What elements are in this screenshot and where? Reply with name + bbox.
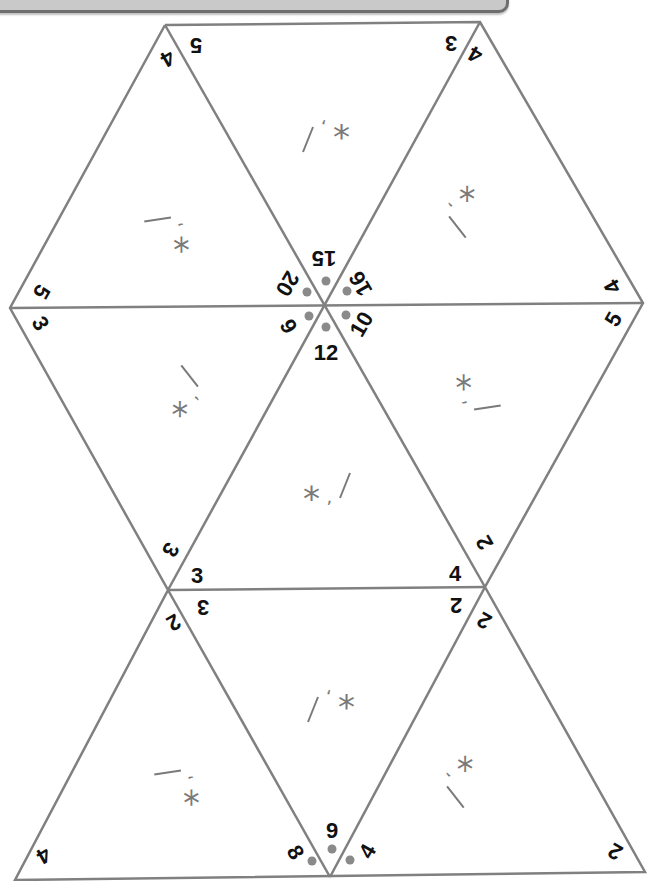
edge-label: 5: [28, 280, 56, 303]
center-label-bottom: 12: [314, 340, 338, 365]
svg-text:*: *: [338, 687, 355, 727]
svg-text:*: *: [303, 468, 320, 508]
svg-text:*: *: [155, 230, 198, 265]
edge-label: 4: [32, 842, 56, 870]
edge-label: 5: [600, 308, 628, 331]
svg-text:*: *: [447, 362, 490, 397]
svg-text:*: *: [333, 117, 350, 157]
triangle-symbol-bottom-left: ‘ *: [150, 756, 209, 817]
svg-text:*: *: [165, 783, 208, 818]
bottom-center-label-left: 8: [282, 841, 310, 864]
edge-label: 4: [156, 45, 180, 73]
triangle-symbols: ‘ * ‘ * ‘ * ‘ * ‘ * ‘ * ‘: [140, 116, 505, 818]
svg-text:‘: ‘: [321, 116, 327, 137]
triangle-symbol-bottom-right: ‘ *: [433, 749, 492, 810]
edge-label: 3: [191, 563, 203, 588]
svg-text:‘: ‘: [326, 686, 332, 707]
center-label-top-left: 20: [271, 267, 305, 301]
bottom-center-label-right: 4: [354, 839, 382, 863]
edge-label: 2: [473, 607, 496, 635]
triangle-symbol-lower-left: ‘ *: [153, 363, 212, 424]
edge-label: 2: [471, 531, 499, 554]
triangle-symbol-top: ‘ *: [303, 116, 350, 157]
edge-label: 4: [598, 275, 626, 299]
edge-label: 3: [27, 312, 55, 335]
bottom-center-label-mid: 9: [326, 818, 338, 843]
center-label-bottom-left: 9: [275, 315, 303, 338]
triangle-symbol-upper-right: ‘ *: [435, 179, 494, 240]
tarsia-puzzle-board: 15 16 10 12 9 20 8 9 4 5 4 3 4 5 3 4 5 3…: [0, 0, 656, 881]
triangle-symbol-upper-left: ‘ *: [140, 203, 199, 264]
triangle-grid-lines: [10, 22, 645, 880]
edge-label: 3: [197, 595, 209, 620]
edge-label: 4: [449, 561, 462, 586]
triangle-symbol-lower-right: ‘ *: [446, 362, 505, 423]
edge-label: 5: [190, 33, 202, 58]
svg-text:‘: ‘: [326, 488, 332, 509]
center-label-top: 15: [312, 246, 336, 271]
edge-label: 2: [604, 838, 627, 866]
edge-label: 3: [445, 31, 457, 56]
triangle-symbol-center-bottom: ‘ *: [303, 468, 350, 509]
edge-label: 2: [450, 593, 462, 618]
edge-label: 3: [157, 538, 185, 561]
triangle-symbol-bottom-center: ‘ *: [308, 686, 355, 727]
center-label-top-right: 16: [343, 267, 377, 301]
